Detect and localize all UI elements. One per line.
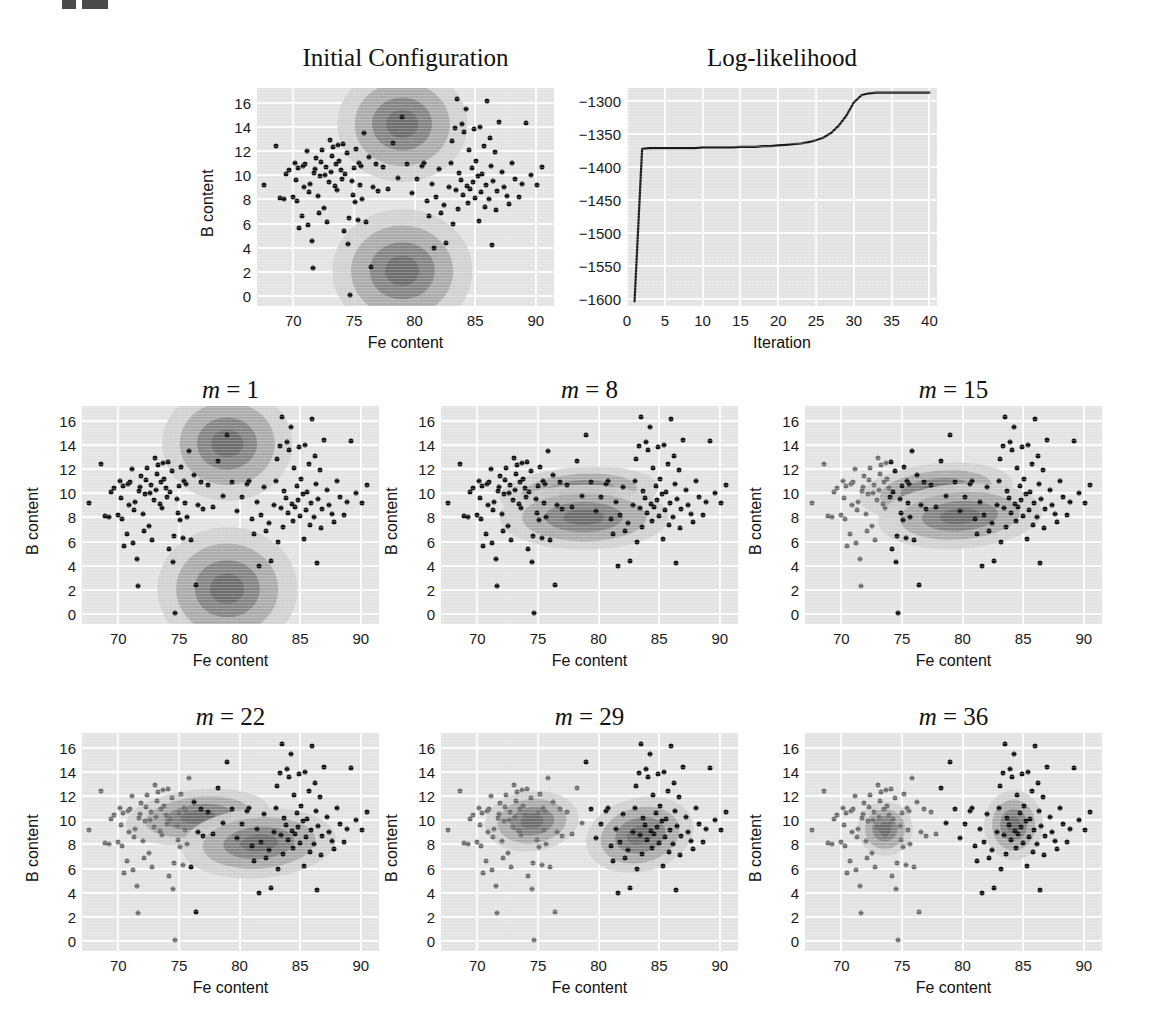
x-tick-label: 35 [883,312,900,329]
x-tick-label: 25 [808,312,825,329]
y-tick-label: −1350 [571,126,621,143]
panel-loglik: Log-likelihood−1300−1350−1400−1450−1500−… [0,0,1149,1034]
y-tick-label: −1550 [571,258,621,275]
x-axis-label: Iteration [627,334,937,352]
y-tick-label: −1500 [571,225,621,242]
y-tick-label: −1300 [571,93,621,110]
loglikelihood-curve [627,88,937,306]
x-tick-label: 0 [623,312,631,329]
x-tick-label: 20 [770,312,787,329]
x-tick-label: 5 [661,312,669,329]
x-tick-label: 30 [845,312,862,329]
plot-area-loglik [627,88,937,306]
x-tick-label: 40 [921,312,938,329]
y-tick-label: −1400 [571,159,621,176]
x-tick-label: 10 [694,312,711,329]
panel-title-loglik: Log-likelihood [627,44,937,72]
y-tick-label: −1600 [571,291,621,308]
y-tick-label: −1450 [571,192,621,209]
x-tick-label: 15 [732,312,749,329]
